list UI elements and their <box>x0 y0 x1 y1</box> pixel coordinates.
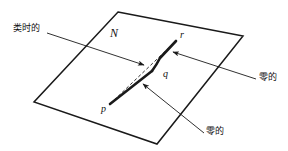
timelike-leader-line <box>47 33 144 65</box>
null-path-p-to-q <box>110 71 152 104</box>
annotation-label-null-bottom: 零的 <box>206 127 224 136</box>
null-surface-polygon <box>34 12 243 144</box>
diagram-canvas <box>0 0 288 151</box>
point-label-r: r <box>180 30 184 40</box>
annotation-label-null-right: 零的 <box>259 73 277 82</box>
spacetime-diagram-figure: N p q r 类时的 零的 零的 <box>0 0 288 151</box>
annotation-label-timelike: 类时的 <box>13 24 40 33</box>
point-label-q: q <box>163 69 168 79</box>
point-label-p: p <box>101 104 106 114</box>
null-bottom-leader-line <box>143 84 204 133</box>
surface-label-n: N <box>110 27 118 39</box>
null-right-leader-line <box>173 52 256 79</box>
null-path-q-to-r <box>152 41 176 71</box>
